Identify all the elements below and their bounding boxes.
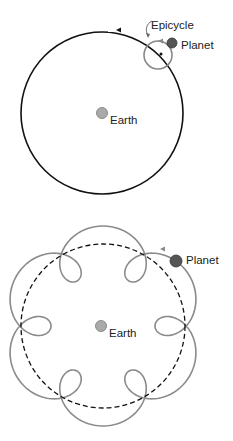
diagram-canvas: Epicycle Planet Earth Planet Earth bbox=[0, 0, 233, 441]
planet-label: Planet bbox=[181, 39, 214, 51]
epicycle-center-dot bbox=[160, 53, 163, 56]
planet-dot bbox=[167, 38, 177, 48]
earth-dot bbox=[97, 108, 108, 119]
earth-label: Earth bbox=[110, 114, 138, 126]
bottom-diagram: Planet Earth bbox=[10, 226, 219, 426]
planet-dot bbox=[170, 255, 182, 267]
path-arrow-icon bbox=[160, 247, 165, 252]
top-diagram: Epicycle Planet Earth bbox=[21, 19, 214, 194]
epicycle-arrow-icon bbox=[158, 39, 163, 44]
deferent-arrow-icon bbox=[116, 28, 121, 33]
planet-label: Planet bbox=[186, 254, 219, 266]
earth-dot bbox=[96, 321, 107, 332]
epicycle-label: Epicycle bbox=[151, 19, 194, 31]
earth-label: Earth bbox=[109, 327, 137, 339]
